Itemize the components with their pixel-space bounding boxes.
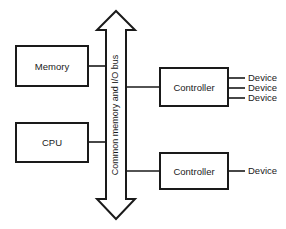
block-controller-2: Controller [160,153,228,189]
block-cpu: CPU [16,123,88,162]
device-labels: Device Device Device Device [248,72,277,176]
controller-2-label: Controller [173,166,214,177]
device-label-4: Device [248,165,277,176]
bus-label: Common memory and I/O bus [110,54,120,175]
block-controller-1: Controller [160,68,228,106]
diagram-canvas: Common memory and I/O bus Memory CPU Con [0,0,286,229]
common-bus: Common memory and I/O bus [97,11,135,219]
controller-1-label: Controller [173,82,214,93]
cpu-label: CPU [42,137,62,148]
memory-label: Memory [35,61,70,72]
block-memory: Memory [16,46,88,86]
device-label-3: Device [248,92,277,103]
architecture-diagram: Common memory and I/O bus Memory CPU Con [0,0,286,229]
